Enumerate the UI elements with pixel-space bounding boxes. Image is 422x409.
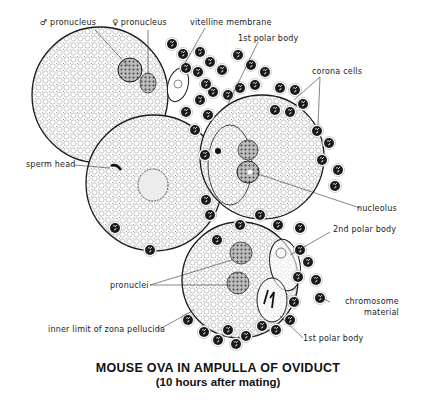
- label-first-polar-body-top: 1st polar body: [238, 34, 298, 43]
- label-sperm-head: sperm head: [26, 160, 76, 169]
- figure-title: MOUSE OVA IN AMPULLA OF OVIDUCT: [0, 361, 422, 375]
- ovum-middle-left: [86, 115, 222, 251]
- label-pronuclei: pronuclei: [110, 281, 149, 290]
- label-first-polar-body-bottom: 1st polar body: [303, 334, 363, 343]
- label-inner-limit-zona: inner limit of zona pellucida: [48, 325, 165, 334]
- label-chromosome-material-2: material: [364, 308, 399, 317]
- male-pronucleus: [118, 58, 142, 82]
- label-male-pronucleus: ♂ pronucleus: [40, 18, 96, 27]
- label-chromosome-material-1: chromosome: [345, 297, 399, 306]
- ovum-right: [200, 95, 324, 219]
- label-corona-cells: corona cells: [312, 67, 362, 76]
- female-pronucleus: [140, 73, 156, 93]
- label-vitelline-membrane: vitelline membrane: [190, 18, 272, 27]
- figure-subtitle: (10 hours after mating): [0, 376, 422, 388]
- label-female-pronucleus: ♀ pronucleus: [112, 18, 167, 27]
- label-nucleolus: nucleolus: [357, 204, 397, 213]
- label-second-polar-body: 2nd polar body: [333, 225, 396, 234]
